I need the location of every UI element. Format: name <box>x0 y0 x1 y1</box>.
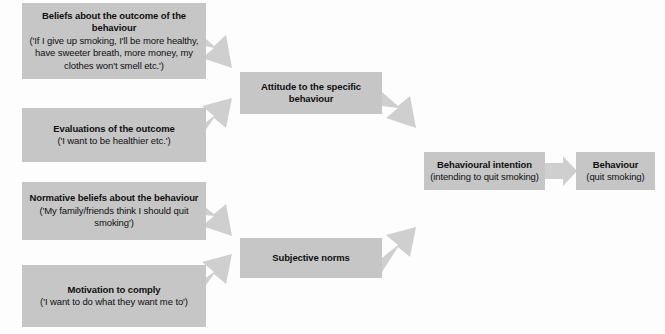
node-normative-beliefs: Normative beliefs about the behaviour ('… <box>22 182 206 240</box>
theory-of-planned-behaviour-diagram: Beliefs about the outcome of the behavio… <box>0 0 665 334</box>
node-subtitle: ('I want to be healthier etc.') <box>57 135 170 148</box>
node-title: Behavioural intention <box>437 159 532 172</box>
node-subjective-norms: Subjective norms <box>240 238 382 278</box>
node-title: Attitude to the specific behaviour <box>244 81 378 106</box>
node-behavioural-intention: Behavioural intention (intending to quit… <box>424 152 545 190</box>
node-title: Subjective norms <box>272 252 350 265</box>
arrow-subjective-to-intention <box>382 227 416 272</box>
node-title: Motivation to comply <box>67 284 160 297</box>
node-subtitle: ('If I give up smoking, I'll be more hea… <box>26 35 202 73</box>
node-attitude-to-behaviour: Attitude to the specific behaviour <box>240 72 382 114</box>
node-motivation-to-comply: Motivation to comply ('I want to do what… <box>22 265 206 327</box>
node-title: Normative beliefs about the behaviour <box>30 192 199 205</box>
arrow-attitude-to-intention <box>382 92 416 128</box>
node-title: Behaviour <box>593 159 639 172</box>
node-title: Evaluations of the outcome <box>53 123 174 136</box>
arrow-intention-to-behaviour <box>545 156 577 186</box>
node-beliefs-about-outcome: Beliefs about the outcome of the behavio… <box>22 3 206 79</box>
node-behaviour: Behaviour (quit smoking) <box>576 152 655 190</box>
node-subtitle: ('My family/friends think I should quit … <box>26 205 202 230</box>
node-title: Beliefs about the outcome of the behavio… <box>26 10 202 35</box>
node-subtitle: (quit smoking) <box>586 171 644 184</box>
node-subtitle: (intending to quit smoking) <box>430 171 539 184</box>
node-subtitle: ('I want to do what they want me to') <box>40 296 188 309</box>
node-evaluations-of-outcome: Evaluations of the outcome ('I want to b… <box>22 108 206 162</box>
